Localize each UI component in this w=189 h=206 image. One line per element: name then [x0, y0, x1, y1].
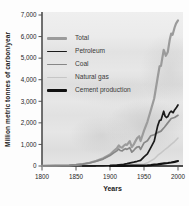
x-tick-label: 1950 [137, 173, 152, 180]
legend-swatch-total [47, 37, 67, 39]
legend-label-coal: Coal [75, 61, 89, 68]
series-line-petroleum [83, 105, 178, 166]
y-tick-label: 6,000 [21, 33, 37, 40]
legend-label-cement-production: Cement production [75, 87, 131, 94]
legend-swatch-petroleum [47, 51, 67, 53]
legend-swatch-natural-gas [47, 77, 67, 79]
emissions-line-chart: 01,0002,0003,0004,0005,0006,0007,0001800… [0, 0, 189, 206]
series-line-coal [42, 115, 178, 166]
y-axis-title: Million metric tonnes of carbon/year [4, 31, 11, 146]
chart-legend: Total Petroleum Coal Natural gas Cement … [47, 32, 157, 97]
x-tick-label: 1850 [69, 173, 84, 180]
x-tick-label: 1800 [35, 173, 50, 180]
legend-item-petroleum: Petroleum [47, 45, 157, 58]
emissions-figure: 01,0002,0003,0004,0005,0006,0007,0001800… [0, 0, 189, 206]
y-tick-label: 3,000 [21, 98, 37, 105]
y-tick-label: 5,000 [21, 54, 37, 61]
legend-swatch-cement-production [47, 89, 67, 91]
legend-label-total: Total [75, 35, 89, 42]
legend-item-coal: Coal [47, 58, 157, 71]
legend-label-petroleum: Petroleum [75, 48, 105, 55]
x-tick-label: 2000 [171, 173, 186, 180]
x-axis-title: Years [42, 185, 183, 192]
legend-item-total: Total [47, 32, 157, 45]
legend-swatch-coal [47, 64, 67, 66]
legend-label-natural-gas: Natural gas [75, 74, 109, 81]
y-tick-label: 0 [33, 162, 37, 169]
y-tick-label: 7,000 [21, 11, 37, 18]
x-tick-label: 1900 [103, 173, 118, 180]
y-tick-label: 1,000 [21, 141, 37, 148]
legend-item-natural-gas: Natural gas [47, 71, 157, 84]
y-axis-title-wrap: Million metric tonnes of carbon/year [0, 12, 15, 166]
y-tick-label: 2,000 [21, 119, 37, 126]
y-tick-label: 4,000 [21, 76, 37, 83]
legend-item-cement-production: Cement production [47, 84, 157, 97]
